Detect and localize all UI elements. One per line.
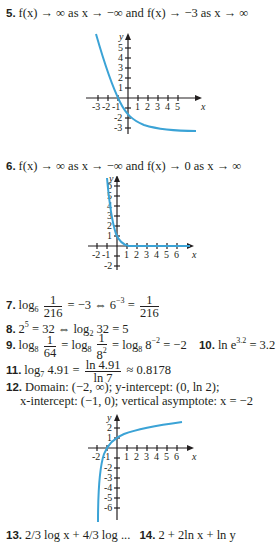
svg-text:-1: -1 (112, 101, 120, 112)
item-text: f(x) → ∞ as x → −∞ and f(x) → 0 as x → ∞ (19, 159, 242, 173)
svg-text:5: 5 (164, 451, 169, 462)
item-13-14: 13.2/3 log x + 4/3 log ... 14.2 + 2ln x … (6, 528, 236, 542)
svg-text:x: x (191, 249, 197, 260)
item-text: 2 + 2ln x + ln y (158, 528, 235, 542)
item-number: 7. (6, 299, 16, 311)
svg-text:3: 3 (144, 451, 149, 462)
log-text: log (24, 363, 40, 377)
equation-text: = −2 (163, 338, 186, 352)
svg-text:x: x (200, 101, 206, 112)
item-text: x-intercept: (−1, 0); vertical asymptote… (20, 394, 253, 408)
svg-text:2: 2 (134, 451, 139, 462)
item-number: 6. (6, 160, 16, 172)
svg-text:y: y (118, 31, 124, 42)
item-number: 10. (199, 339, 215, 351)
equation-text: = log (61, 338, 87, 352)
svg-text:1: 1 (124, 249, 129, 260)
item-12: 12.Domain: (−2, ∞); y-intercept: (0, ln … (6, 380, 219, 394)
item-6: 6.f(x) → ∞ as x → −∞ and f(x) → 0 as x →… (6, 159, 241, 173)
svg-text:2: 2 (134, 249, 139, 260)
equation-text: = −3 ⇔ 6 (68, 298, 116, 312)
item-5: 5.f(x) → ∞ as x → −∞ and f(x) → −3 as x … (6, 6, 248, 20)
item-7: 7.log6 1216 = −3 ⇔ 6−3 = 1216 (6, 294, 161, 319)
denominator: 64 (44, 347, 57, 359)
svg-text:3: 3 (144, 249, 149, 260)
item-number: 5. (6, 7, 16, 19)
y-axis (114, 176, 120, 270)
svg-text:-2: -2 (92, 249, 100, 260)
item-12-line-2: x-intercept: (−1, 0); vertical asymptote… (20, 394, 253, 408)
svg-text:4: 4 (154, 451, 159, 462)
exponent: 2 (103, 346, 107, 355)
exponent: −3 (116, 296, 125, 305)
svg-text:1: 1 (107, 230, 112, 241)
item-number: 14. (139, 529, 155, 541)
item-text: 2/3 log x + 4/3 log ... (25, 528, 130, 542)
svg-text:1: 1 (118, 82, 123, 93)
svg-text:5: 5 (164, 249, 169, 260)
svg-text:-2: -2 (102, 101, 110, 112)
equation-text: ≈ 0.8178 (127, 363, 171, 377)
exponent: 5 (25, 320, 29, 329)
svg-text:1: 1 (135, 101, 140, 112)
equation-text: 4.91 = (47, 363, 79, 377)
svg-text:-6: -6 (104, 502, 112, 513)
equation-text: = log (112, 338, 138, 352)
y-axis (125, 33, 131, 134)
svg-text:4: 4 (154, 249, 159, 260)
item-number: 12. (6, 381, 22, 393)
graph-12: y x -2 -1 1 2 3 4 5 6 2 1 -2 -3 -4 -5 -6 (0, 410, 270, 525)
item-text: Domain: (−2, ∞); y-intercept: (0, ln 2); (25, 380, 219, 394)
svg-text:-1: -1 (102, 249, 110, 260)
svg-text:6: 6 (174, 249, 179, 260)
log-base: 8 (87, 345, 91, 354)
svg-text:-3: -3 (92, 101, 100, 112)
svg-text:6: 6 (174, 451, 179, 462)
denominator: 216 (140, 307, 159, 319)
svg-text:-2: -2 (92, 451, 100, 462)
graph-5: y x -3 -2 -1 1 2 3 4 5 5 4 3 2 1 -2 -3 (0, 28, 270, 153)
equation-text: ln e (218, 338, 236, 352)
tick-labels: y x -3 -2 -1 1 2 3 4 5 5 4 3 2 1 -2 -3 (92, 31, 206, 133)
exponent: −2 (152, 336, 161, 345)
fraction: 182 (97, 332, 107, 361)
fraction: 1216 (140, 294, 159, 319)
item-text: f(x) → ∞ as x → −∞ and f(x) → −3 as x → … (19, 6, 249, 20)
log-base: 8 (138, 345, 142, 354)
item-9: 9.log8 164 = log8 182 = log8 8−2 = −2 10… (6, 332, 275, 361)
svg-text:2: 2 (145, 101, 150, 112)
tick-labels: y x -2 -1 1 2 3 4 5 6 2 1 -2 -3 -4 -5 -6 (92, 412, 197, 513)
log-base: 7 (40, 370, 44, 379)
svg-text:-2: -2 (104, 260, 112, 271)
fraction: 164 (44, 334, 57, 359)
log-text: log (19, 338, 35, 352)
graph-6: y x -2 -1 1 2 3 4 5 6 6 5 4 3 2 1 -2 (0, 176, 270, 296)
svg-text:3: 3 (155, 101, 160, 112)
svg-text:-3: -3 (114, 122, 122, 133)
svg-text:5: 5 (175, 101, 180, 112)
fraction: 1216 (44, 294, 63, 319)
log-base: 8 (35, 345, 39, 354)
numerator: 1 (97, 332, 107, 345)
y-axis (114, 414, 120, 520)
item-number: 9. (6, 339, 16, 351)
log-text: log (19, 298, 35, 312)
svg-text:1: 1 (124, 451, 129, 462)
equals: = (128, 298, 135, 312)
curve (96, 34, 196, 131)
item-number: 11. (6, 364, 21, 376)
svg-text:4: 4 (165, 101, 170, 112)
svg-text:x: x (191, 451, 197, 462)
log-base: 6 (35, 305, 39, 314)
item-number: 13. (6, 529, 22, 541)
exponent: 3.2 (236, 336, 246, 345)
equation-text: = 3.2 (249, 338, 275, 352)
